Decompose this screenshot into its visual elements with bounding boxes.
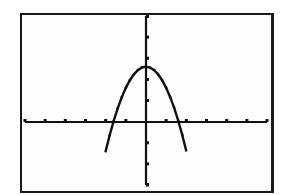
y-tick (146, 99, 149, 102)
x-tick (64, 119, 67, 122)
curve-segment (126, 80, 130, 88)
y-tick (146, 57, 149, 60)
x-tick (104, 119, 107, 122)
y-axis-cap (146, 183, 149, 185)
x-tick (205, 119, 208, 122)
y-tick (146, 36, 149, 39)
graph-plot (22, 15, 271, 191)
y-tick (146, 78, 149, 81)
x-tick (266, 119, 269, 122)
x-tick (44, 119, 47, 122)
x-tick (225, 119, 228, 122)
curve-segment (122, 88, 126, 97)
x-tick (24, 119, 27, 122)
curve-segment (174, 108, 178, 121)
curve-segment (118, 97, 122, 108)
x-tick (185, 119, 188, 122)
x-tick (165, 119, 168, 122)
x-tick (84, 119, 87, 122)
y-tick (146, 141, 149, 144)
curve-segment (170, 97, 174, 108)
calculator-graph-screen: Graphing calculator window showing a dow… (20, 13, 274, 193)
x-tick (124, 119, 127, 122)
y-tick (146, 162, 149, 165)
y-axis-cap (146, 16, 149, 18)
curve-segment (182, 135, 186, 151)
curve-segment (162, 80, 166, 88)
curve-segment (166, 88, 170, 97)
curve-segment (114, 108, 118, 121)
curve-segment (106, 135, 110, 151)
x-tick (245, 119, 248, 122)
